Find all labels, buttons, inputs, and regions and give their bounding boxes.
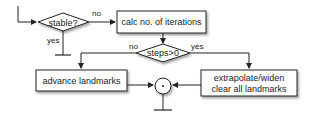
stable-label: stable?	[48, 18, 77, 28]
stable-decision: stable?	[38, 13, 89, 31]
steps-label: steps>0	[147, 48, 179, 58]
edge-steps-yes: yes	[190, 42, 249, 68]
advance-landmarks-box: advance landmarks	[36, 70, 127, 91]
extrapolate-line2: clear all landmarks	[211, 84, 287, 94]
edge-stable-no: no	[89, 9, 115, 22]
stable-yes-label: yes	[47, 36, 59, 45]
steps-yes-label: yes	[191, 42, 203, 51]
join-dot	[162, 85, 164, 87]
edge-steps-no: no	[81, 42, 138, 68]
steps-decision: steps>0	[136, 44, 190, 62]
exit-terminal	[154, 94, 172, 110]
join-node	[155, 78, 171, 94]
calc-iterations-box: calc no. of iterations	[117, 11, 206, 33]
steps-no-label: no	[129, 42, 138, 51]
entry-arrow	[18, 6, 36, 22]
edge-stable-yes: yes	[47, 31, 71, 55]
calc-label: calc no. of iterations	[121, 17, 202, 27]
extrapolate-box: extrapolate/widen clear all landmarks	[201, 70, 297, 96]
stable-no-label: no	[92, 9, 101, 18]
advance-label: advance landmarks	[42, 76, 121, 86]
flowchart: stable? no yes calc no. of iterations st…	[0, 0, 319, 123]
extrapolate-line1: extrapolate/widen	[214, 73, 285, 83]
